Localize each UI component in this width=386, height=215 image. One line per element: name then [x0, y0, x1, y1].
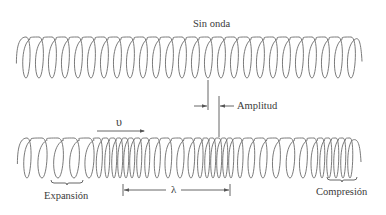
velocity-symbol: υ [116, 116, 122, 128]
spring-at-rest [16, 37, 362, 78]
expansion-label: Expansión [44, 191, 88, 202]
amplitude-arrow-left-head-icon [220, 104, 225, 108]
velocity-arrow-head-icon [140, 129, 145, 133]
amplitude-label: Amplitud [237, 101, 277, 112]
springs-group [16, 37, 362, 178]
spring-with-wave [17, 138, 361, 178]
amplitude-arrow-right-head-icon [202, 104, 207, 108]
wavelength-arrow-right-head-icon [224, 188, 229, 192]
title-at-rest: Sin onda [193, 19, 230, 30]
longitudinal-wave-diagram [0, 0, 386, 215]
compression-brace-icon [327, 177, 357, 182]
expansion-brace-icon [51, 180, 83, 185]
compression-label: Compresión [316, 187, 367, 198]
wavelength-arrow-left-head-icon [124, 188, 129, 192]
wavelength-symbol: λ [171, 184, 176, 195]
